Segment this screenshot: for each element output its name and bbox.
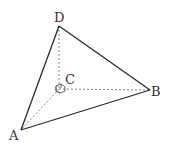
edge-cb bbox=[59, 89, 150, 90]
edge-da bbox=[21, 26, 59, 130]
right-angle-marker bbox=[56, 84, 65, 93]
label-a: A bbox=[8, 128, 19, 143]
label-c: C bbox=[65, 72, 75, 87]
label-b: B bbox=[151, 84, 161, 99]
label-d: D bbox=[54, 10, 64, 25]
edge-ab bbox=[21, 90, 150, 130]
tetrahedron-diagram: D C B A bbox=[0, 0, 173, 147]
